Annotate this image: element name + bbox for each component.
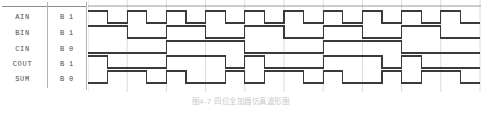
signal-table: AIN B1 BIN B1 CIN B0 COUT B1 SUM B0 bbox=[0, 0, 88, 90]
signal-radix-label: B bbox=[60, 45, 65, 53]
table-row[interactable]: BIN B1 bbox=[0, 25, 88, 41]
signal-value-label: B0 bbox=[50, 71, 84, 87]
signal-name-label: SUM bbox=[0, 71, 45, 87]
table-row[interactable]: COUT B1 bbox=[0, 56, 88, 72]
waveform-figure: AIN B1 BIN B1 CIN B0 COUT B1 SUM B0 图4-7… bbox=[0, 0, 481, 113]
signal-radix-label: B bbox=[60, 75, 65, 83]
signal-name-label: AIN bbox=[0, 9, 45, 25]
signal-trace-ain bbox=[88, 11, 480, 23]
signal-value-label: B1 bbox=[50, 25, 84, 41]
table-row[interactable]: SUM B0 bbox=[0, 71, 88, 87]
signal-radix-label: B bbox=[60, 60, 65, 68]
signal-radix-label: B bbox=[60, 29, 65, 37]
signal-value-text: 1 bbox=[69, 29, 74, 37]
table-row[interactable]: AIN B1 bbox=[0, 9, 88, 25]
signal-name-label: COUT bbox=[0, 56, 45, 72]
waveform-plot[interactable] bbox=[88, 0, 481, 92]
figure-caption: 图4-7 四位全加器仿真波形图 bbox=[0, 95, 481, 106]
signal-value-text: 0 bbox=[69, 75, 74, 83]
signal-name-label: CIN bbox=[0, 41, 45, 57]
table-row[interactable]: CIN B0 bbox=[0, 41, 88, 57]
signal-value-label: B1 bbox=[50, 9, 84, 25]
signal-value-text: 1 bbox=[69, 60, 74, 68]
waveform-canvas bbox=[88, 0, 481, 92]
signal-radix-label: B bbox=[60, 13, 65, 21]
signal-trace-bin bbox=[88, 26, 480, 38]
signal-value-label: B1 bbox=[50, 56, 84, 72]
signal-value-text: 0 bbox=[69, 45, 74, 53]
signal-name-label: BIN bbox=[0, 25, 45, 41]
signal-value-label: B0 bbox=[50, 41, 84, 57]
table-top-rule bbox=[2, 6, 86, 7]
signal-value-text: 1 bbox=[69, 13, 74, 21]
